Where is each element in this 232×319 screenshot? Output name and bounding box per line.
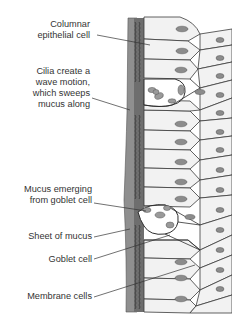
columnar-cells [144, 17, 200, 313]
label-sheet-of-mucus: Sheet of mucus [28, 231, 92, 242]
epithelium-diagram: Columnar epithelial cell Cilia create a … [0, 0, 232, 319]
label-membrane-cells: Membrane cells [27, 291, 92, 302]
label-columnar-epithelial-cell: Columnar epithelial cell [37, 19, 90, 41]
label-mucus-emerging: Mucus emerging from goblet cell [24, 184, 92, 206]
label-cilia-wave-motion: Cilia create a wave motion, which sweeps… [33, 66, 90, 110]
epithelium-illustration [0, 0, 232, 319]
label-goblet-cell: Goblet cell [49, 254, 92, 265]
